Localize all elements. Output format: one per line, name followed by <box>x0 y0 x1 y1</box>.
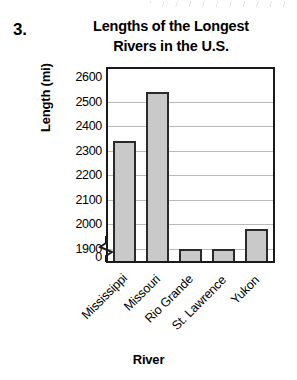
bar-chart: Length (mi) 2600250024002300220021002000… <box>0 0 297 380</box>
x-axis-tick-labels: MississippiMissouriRio GrandeSt. Lawrenc… <box>0 0 297 380</box>
x-axis-title: River <box>0 352 297 367</box>
